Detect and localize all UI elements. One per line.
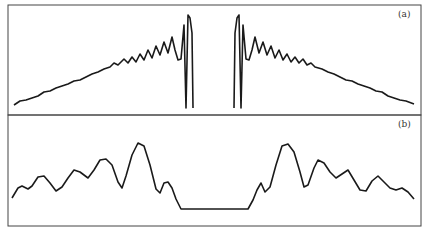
- panel-a-label: (a): [398, 9, 410, 19]
- figure-canvas: [0, 0, 426, 232]
- panel-a-curve-right: [234, 15, 414, 108]
- panel-a-frame: [8, 5, 421, 115]
- panel-b-label: (b): [398, 119, 411, 129]
- panel-a-curve-left: [14, 15, 193, 108]
- panel-b-curve: [12, 143, 414, 209]
